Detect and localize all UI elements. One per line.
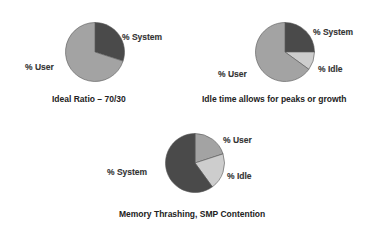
pie3-label-idle: % Idle xyxy=(227,171,252,181)
pie-slice xyxy=(285,23,315,53)
pie-chart-memory-thrashing xyxy=(165,133,225,193)
pie-chart-idle-time xyxy=(255,22,315,82)
pie3-title: Memory Thrashing, SMP Contention xyxy=(119,209,265,219)
pie2-title: Idle time allows for peaks or growth xyxy=(202,94,347,104)
pie2-label-user: % User xyxy=(218,69,247,79)
pie-chart-ideal-ratio xyxy=(65,22,125,82)
pie2-label-system: % System xyxy=(313,27,353,37)
pie1-label-user: % User xyxy=(25,62,54,72)
pie1-title: Ideal Ratio – 70/30 xyxy=(52,94,126,104)
pie1-label-system: % System xyxy=(122,32,162,42)
pie3-label-user: % User xyxy=(223,135,252,145)
pie2-label-idle: % Idle xyxy=(318,64,343,74)
pie3-label-system: % System xyxy=(107,167,147,177)
